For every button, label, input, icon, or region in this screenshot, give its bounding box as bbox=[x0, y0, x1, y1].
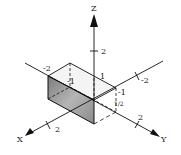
x-axis-arrow-icon bbox=[25, 128, 34, 136]
x-2-label: 2 bbox=[55, 125, 60, 134]
x-axis-label: X bbox=[17, 135, 23, 144]
z-tick-2-label: 2 bbox=[101, 47, 106, 56]
z-axis-label: Z bbox=[91, 4, 97, 13]
diagram-canvas: Z 2 1 -2 -1 -2 -1 1/2 2 2 X Y bbox=[0, 0, 181, 155]
x-neg2-label: -2 bbox=[141, 76, 149, 85]
y-axis-arrow-icon bbox=[150, 129, 160, 137]
x-neg1-back-label: -1 bbox=[67, 77, 75, 86]
y-neg2-label: -2 bbox=[43, 64, 51, 73]
y-2-label: 2 bbox=[138, 113, 143, 122]
y-axis-label: Y bbox=[160, 135, 167, 144]
z-tick-1-label: 1 bbox=[100, 72, 105, 81]
z-axis-arrow-icon bbox=[90, 14, 98, 27]
x-neg1-label: -1 bbox=[118, 88, 126, 97]
y-half-label: 1/2 bbox=[114, 100, 124, 107]
box-bottom-right-dashed bbox=[94, 112, 116, 124]
